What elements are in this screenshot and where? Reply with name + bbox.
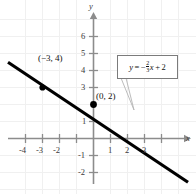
x-tick-label-neg2: -2 — [53, 146, 60, 155]
point-label-0-2: (0, 2) — [96, 92, 116, 101]
x-tick-label-neg3: -3 — [36, 146, 43, 155]
y-tick-label-5: 5 — [81, 49, 85, 58]
axes — [8, 19, 184, 184]
y-tick-label-6: 6 — [81, 32, 85, 41]
equation-constant: 2 — [162, 63, 166, 72]
equation-equals: = — [135, 63, 140, 72]
equation-variable-x: x — [150, 63, 154, 72]
y-axis-arrow — [90, 12, 97, 19]
point-label-neg3-4: (−3, 4) — [38, 54, 63, 63]
equation-minus: − — [141, 63, 146, 72]
x-tick-label-neg4: -4 — [19, 146, 26, 155]
y-tick-label-3: 3 — [81, 83, 85, 92]
x-axis-label: x — [186, 134, 190, 143]
x-tick-label-2: 2 — [125, 146, 129, 155]
equation-y: y — [129, 63, 133, 72]
equation-callout-box: y=−23x+2 — [117, 55, 178, 79]
y-axis-label: y — [89, 2, 93, 11]
y-tick-label-1: 1 — [82, 117, 86, 126]
y-tick-label-4: 4 — [81, 66, 85, 75]
x-tick-label-3: 3 — [142, 146, 146, 155]
y-tick-label-neg2: -2 — [78, 168, 85, 177]
equation-plus: + — [155, 63, 160, 72]
data-point-marker — [39, 84, 45, 90]
graph-figure: -4 -3 -2 1 2 3 6 5 4 3 1 -1 -2 x y (−3, … — [0, 0, 196, 194]
x-tick-label-1: 1 — [108, 146, 112, 155]
data-point-marker — [90, 101, 97, 108]
equation-text: y=−23x+2 — [129, 61, 166, 74]
y-tick-label-neg1: -1 — [78, 151, 85, 160]
